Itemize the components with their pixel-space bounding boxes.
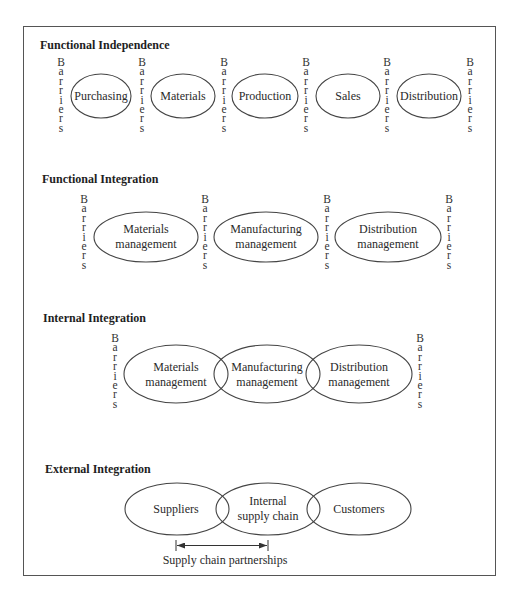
node-label: Customers xyxy=(333,502,385,516)
node-label: management xyxy=(357,237,419,251)
node-label: management xyxy=(235,237,297,251)
node-label: management xyxy=(115,237,177,251)
node-label: Distribution xyxy=(330,360,388,374)
node-materials-management xyxy=(124,345,228,403)
node-distribution-management xyxy=(306,345,412,403)
node-label: management xyxy=(328,375,390,389)
node-label: Sales xyxy=(335,89,361,103)
node-label: management xyxy=(236,375,298,389)
node-label: Purchasing xyxy=(74,89,127,103)
diagram-canvas: Purchasing Materials Production Sales Di… xyxy=(0,0,518,607)
node-label: Materials xyxy=(153,360,199,374)
node-label: Manufacturing xyxy=(231,360,302,374)
node-label: Production xyxy=(239,89,292,103)
node-label: supply chain xyxy=(238,509,299,523)
partnership-span-arrow xyxy=(176,540,268,551)
node-manufacturing-management xyxy=(214,345,320,403)
node-label: Distribution xyxy=(400,89,458,103)
node-label: Materials xyxy=(160,89,206,103)
node-label: Manufacturing xyxy=(230,222,301,236)
partnership-span-label: Supply chain partnerships xyxy=(163,553,288,567)
node-label: management xyxy=(145,375,207,389)
node-label: Distribution xyxy=(359,222,417,236)
node-label: Internal xyxy=(249,494,287,508)
node-label: Materials xyxy=(123,222,169,236)
node-label: Suppliers xyxy=(153,502,199,516)
